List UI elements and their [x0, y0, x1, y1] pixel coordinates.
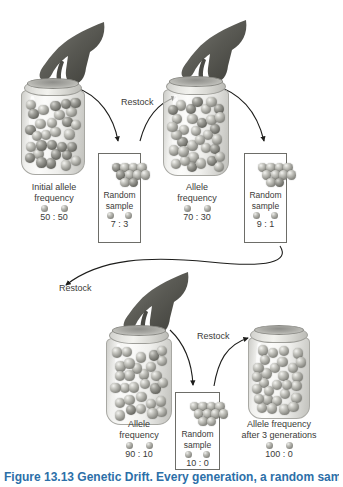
jar-generation-2 — [163, 78, 229, 176]
marble — [61, 99, 71, 109]
label-line-2: frequency — [99, 430, 179, 441]
jar-body — [248, 337, 310, 419]
marble — [136, 392, 146, 402]
label-line-1: Allele — [99, 419, 179, 430]
marble — [38, 105, 48, 115]
allele-dot-dark — [203, 451, 210, 458]
allele-dot-dark — [61, 205, 68, 212]
marble — [156, 407, 166, 417]
marble — [122, 347, 132, 357]
marble — [192, 97, 202, 107]
marble — [124, 370, 134, 380]
allele-dot-dark — [204, 205, 211, 212]
random-sample-box-3: Random sample 10 : 0 — [175, 392, 220, 470]
marble — [70, 98, 80, 108]
jar-marbles — [167, 97, 226, 173]
marble — [147, 408, 157, 418]
sample-marble — [207, 417, 216, 426]
marble — [146, 362, 156, 372]
marble — [124, 395, 134, 405]
allele-dot-row — [176, 451, 219, 458]
jar-marbles — [251, 344, 306, 415]
marble — [67, 142, 77, 152]
allele-dot-dark — [271, 212, 278, 219]
random-sample-box-1: Random sample 7 : 3 — [98, 153, 141, 243]
marble — [254, 394, 264, 404]
jar-body — [163, 89, 229, 176]
marble — [50, 127, 60, 137]
marble — [129, 382, 139, 392]
figure-caption: Figure 13.13 Genetic Drift. Every genera… — [4, 470, 339, 487]
jar-marbles — [110, 346, 169, 422]
marble — [140, 379, 150, 389]
label-line-2: after 3 generations — [227, 430, 331, 441]
restock-label-3: Restock — [197, 331, 230, 341]
sample-label-1: Random sample 7 : 3 — [99, 190, 140, 230]
label-allele-frequency-2: Allele frequency 70 : 30 — [157, 182, 237, 223]
marble — [157, 346, 167, 356]
marble — [71, 156, 81, 166]
allele-dot-light — [266, 442, 273, 449]
allele-dot-dark — [286, 442, 293, 449]
allele-dot-light — [107, 212, 114, 219]
label-line-1: Allele frequency — [227, 419, 331, 430]
allele-dot-light — [41, 205, 48, 212]
jar-mouth — [112, 325, 166, 336]
marble — [178, 146, 188, 156]
restock-label-2: Restock — [59, 283, 92, 293]
marble — [136, 404, 146, 414]
marble — [156, 396, 166, 406]
marble — [115, 371, 125, 381]
jar-body — [21, 90, 85, 175]
marble — [61, 160, 71, 170]
marble — [215, 152, 225, 162]
ratio-value: 9 : 1 — [245, 219, 286, 230]
label-line-1: Random — [245, 190, 286, 201]
label-line-2: frequency — [157, 193, 237, 204]
sample-marble — [275, 178, 284, 187]
marble — [277, 357, 287, 367]
ratio-value: 10 : 0 — [176, 458, 219, 469]
sample-cluster — [176, 397, 219, 427]
label-allele-frequency-final: Allele frequency after 3 generations 100… — [227, 419, 331, 460]
ratio-value: 70 : 30 — [157, 212, 237, 223]
label-line-2: sample — [245, 201, 286, 212]
allele-dot-row — [99, 212, 140, 219]
label-line-2: sample — [176, 440, 219, 451]
marble — [264, 386, 274, 396]
marble — [280, 389, 290, 399]
sample-marble — [219, 409, 228, 418]
marble — [28, 109, 38, 119]
marble — [257, 403, 267, 413]
marble — [212, 134, 222, 144]
marble — [110, 383, 120, 393]
marble — [35, 119, 45, 129]
marble — [36, 140, 46, 150]
marble — [167, 122, 177, 132]
jar-marbles — [24, 98, 81, 171]
allele-dot-row — [99, 442, 179, 449]
jar-generation-3 — [106, 327, 172, 425]
restock-label-1: Restock — [121, 97, 154, 107]
jar-generation-1 — [21, 80, 85, 175]
marble — [215, 112, 225, 122]
marble — [195, 135, 205, 145]
marble — [126, 405, 136, 415]
sample-cluster — [245, 158, 286, 188]
marble — [296, 357, 306, 367]
sample-marble — [287, 170, 296, 179]
ratio-value: 50 : 50 — [14, 212, 94, 223]
allele-dot-light — [126, 442, 133, 449]
label-line-1: Random — [99, 190, 140, 201]
marble — [180, 156, 190, 166]
label-line-1: Initial allele — [14, 182, 94, 193]
label-line-1: Allele — [157, 182, 237, 193]
jar-mouth — [169, 76, 223, 87]
random-sample-box-2: Random sample 9 : 1 — [244, 153, 287, 243]
marble — [26, 142, 36, 152]
marble — [291, 381, 301, 391]
marble — [279, 346, 289, 356]
jar-generation-4 — [248, 327, 310, 419]
marble — [252, 384, 262, 394]
label-allele-frequency-3: Allele frequency 90 : 10 — [99, 419, 179, 460]
